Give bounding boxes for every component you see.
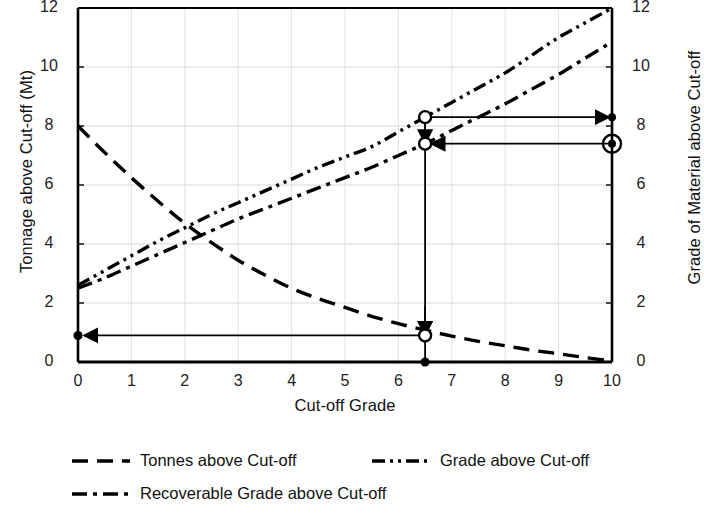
x-tick-label: 5 bbox=[330, 372, 360, 390]
x-tick-label: 3 bbox=[223, 372, 253, 390]
x-tick-label: 6 bbox=[383, 372, 413, 390]
legend-item-tonnes: Tonnes above Cut-off bbox=[140, 451, 297, 470]
x-tick-label: 1 bbox=[116, 372, 146, 390]
y-tick-label-left: 6 bbox=[34, 175, 64, 193]
marker-recoverable-grade-point bbox=[419, 138, 431, 150]
y-tick-label-right: 10 bbox=[626, 57, 656, 75]
y-tick-label-left: 2 bbox=[34, 293, 64, 311]
y-tick-label-left: 12 bbox=[34, 0, 64, 16]
x-tick-label: 10 bbox=[597, 372, 627, 390]
axis-dot-grade-right bbox=[608, 113, 616, 121]
x-axis-title: Cut-off Grade bbox=[78, 396, 612, 415]
x-tick-label: 9 bbox=[544, 372, 574, 390]
x-tick-label: 8 bbox=[490, 372, 520, 390]
y-tick-label-right: 2 bbox=[626, 293, 656, 311]
y-tick-label-left: 0 bbox=[34, 352, 64, 370]
x-tick-label: 4 bbox=[277, 372, 307, 390]
y-tick-label-right: 0 bbox=[626, 352, 656, 370]
y-tick-label-right: 6 bbox=[626, 175, 656, 193]
marker-grade-point bbox=[419, 111, 431, 123]
x-tick-label: 2 bbox=[170, 372, 200, 390]
y-tick-label-right: 8 bbox=[626, 116, 656, 134]
marker-tonnage-point bbox=[419, 329, 431, 341]
x-tick-label: 0 bbox=[63, 372, 93, 390]
axis-dot-recoverable-right bbox=[608, 140, 616, 148]
legend-item-grade: Grade above Cut-off bbox=[440, 451, 589, 470]
y-tick-label-right: 4 bbox=[626, 234, 656, 252]
x-tick-label: 7 bbox=[437, 372, 467, 390]
y-tick-label-right: 12 bbox=[626, 0, 656, 16]
legend-item-recoverable-grade: Recoverable Grade above Cut-off bbox=[140, 484, 386, 503]
y-axis-right-title: Grade of Material above Cut-off bbox=[685, 18, 704, 318]
axis-dot-cutoff-x bbox=[421, 358, 430, 367]
y-tick-label-left: 4 bbox=[34, 234, 64, 252]
y-tick-label-left: 8 bbox=[34, 116, 64, 134]
y-axis-left-title: Tonnage above Cut-off (Mt) bbox=[17, 22, 36, 322]
y-tick-label-left: 10 bbox=[34, 57, 64, 75]
axis-dot-tonnage-left bbox=[74, 331, 83, 340]
